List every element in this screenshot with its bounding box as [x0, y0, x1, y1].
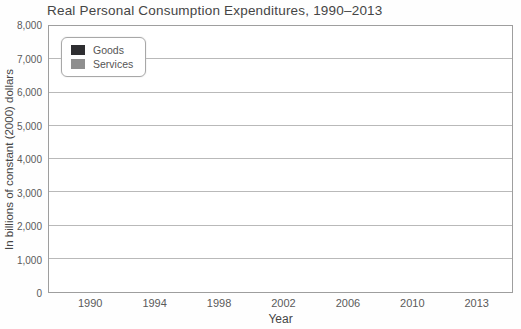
x-tick-label-2002: 2002	[263, 297, 303, 309]
plot-area: GoodsServices	[48, 25, 513, 293]
y-tick-label-5000: 5,000	[0, 120, 42, 131]
x-tick-label-1998: 1998	[199, 297, 239, 309]
x-tick-label-1994: 1994	[135, 297, 175, 309]
y-tick-label-0: 0	[0, 288, 42, 299]
y-tick-label-4000: 4,000	[0, 154, 42, 165]
x-tick-label-1990: 1990	[70, 297, 110, 309]
legend-label-goods: Goods	[93, 44, 124, 56]
chart-figure: Real Personal Consumption Expenditures, …	[0, 0, 521, 329]
legend-swatch-goods	[71, 45, 85, 55]
x-tick-label-2006: 2006	[328, 297, 368, 309]
x-tick-label-2010: 2010	[392, 297, 432, 309]
y-tick-label-6000: 6,000	[0, 87, 42, 98]
x-axis-title: Year	[48, 312, 513, 326]
y-tick-label-7000: 7,000	[0, 53, 42, 64]
y-tick-label-1000: 1,000	[0, 254, 42, 265]
y-axis-ticks: 01,0002,0003,0004,0005,0006,0007,0008,00…	[0, 25, 44, 293]
legend-entry-services: Services	[71, 57, 133, 71]
x-tick-label-2013: 2013	[457, 297, 497, 309]
legend: GoodsServices	[61, 37, 146, 77]
x-axis-ticks: 1990199419982002200620102013	[48, 297, 513, 309]
y-tick-label-8000: 8,000	[0, 20, 42, 31]
y-tick-label-2000: 2,000	[0, 221, 42, 232]
y-tick-label-3000: 3,000	[0, 187, 42, 198]
legend-label-services: Services	[93, 58, 133, 70]
legend-swatch-services	[71, 59, 85, 69]
chart-title: Real Personal Consumption Expenditures, …	[47, 3, 383, 18]
legend-entry-goods: Goods	[71, 43, 133, 57]
